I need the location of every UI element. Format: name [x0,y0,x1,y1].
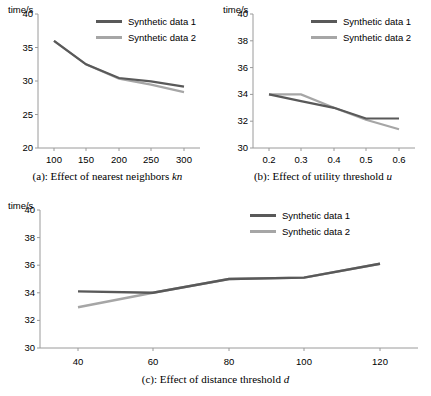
legend-label: Synthetic data 2 [128,32,196,43]
legend-item-a-1: Synthetic data 2 [96,32,196,43]
chart-panel-a: time/s Synthetic data 1 Synthetic data 2… [0,0,215,190]
caption-a-text: (a): Effect of nearest neighbors [33,170,172,182]
y-tick-c-32: 32 [24,314,35,325]
legend-swatch-icon [250,214,276,217]
legend-c: Synthetic data 1 Synthetic data 2 [250,210,350,242]
x-tick-a-3: 250 [143,154,159,165]
x-tick-b-0: 0.2 [262,154,275,165]
legend-b: Synthetic data 1 Synthetic data 2 [311,16,411,48]
y-tick-c-34: 34 [24,287,35,298]
legend-swatch-icon [311,36,337,39]
legend-label: Synthetic data 1 [282,210,350,221]
x-tick-b-4: 0.6 [392,154,405,165]
legend-item-b-0: Synthetic data 1 [311,16,411,27]
y-tick-a-35: 35 [22,42,33,53]
caption-c-symbol: d [284,373,290,385]
caption-c: (c): Effect of distance threshold d [0,373,431,385]
y-tick-a-25: 25 [22,109,33,120]
caption-b: (b): Effect of utility threshold u [215,170,431,182]
y-tick-c-36: 36 [24,259,35,270]
legend-label: Synthetic data 1 [128,16,196,27]
y-tick-b-34: 34 [237,88,248,99]
y-tick-a-30: 30 [22,75,33,86]
legend-label: Synthetic data 2 [282,226,350,237]
series-line-c-1 [78,264,380,308]
x-tick-a-4: 300 [176,154,192,165]
legend-item-b-1: Synthetic data 2 [311,32,411,43]
x-tick-c-0: 40 [73,356,84,367]
y-tick-c-38: 38 [24,232,35,243]
y-tick-b-38: 38 [237,35,248,46]
y-tick-b-36: 36 [237,62,248,73]
y-tick-b-30: 30 [237,142,248,153]
plot-area-c: 30 32 34 36 38 40 40 60 80 100 120 [0,190,431,370]
legend-item-c-0: Synthetic data 1 [250,210,350,221]
legend-swatch-icon [250,230,276,233]
y-axis-label-c: time/s [8,200,33,211]
legend-swatch-icon [96,36,122,39]
y-axis-label-b: time/s [223,4,248,15]
x-tick-c-1: 60 [148,356,159,367]
x-tick-a-1: 150 [78,154,94,165]
series-line-c-0 [78,264,380,293]
y-axis-label-a: time/s [8,4,33,15]
caption-b-text: (b): Effect of utility threshold [254,170,387,182]
legend-a: Synthetic data 1 Synthetic data 2 [96,16,196,48]
legend-label: Synthetic data 1 [343,16,411,27]
x-tick-a-2: 200 [111,154,127,165]
x-tick-c-4: 120 [372,356,388,367]
legend-swatch-icon [311,20,337,23]
caption-c-text: (c): Effect of distance threshold [142,373,284,385]
caption-b-symbol: u [387,170,393,182]
caption-a: (a): Effect of nearest neighbors kn [0,170,215,182]
legend-label: Synthetic data 2 [343,32,411,43]
x-tick-b-3: 0.5 [359,154,372,165]
x-tick-c-3: 100 [296,356,312,367]
chart-panel-b: time/s Synthetic data 1 Synthetic data 2… [215,0,431,190]
x-tick-b-2: 0.4 [327,154,340,165]
legend-swatch-icon [96,20,122,23]
y-tick-a-20: 20 [22,142,33,153]
legend-item-a-0: Synthetic data 1 [96,16,196,27]
legend-item-c-1: Synthetic data 2 [250,226,350,237]
x-tick-a-0: 100 [46,154,62,165]
chart-panel-c: time/s Synthetic data 1 Synthetic data 2… [0,190,431,396]
y-tick-c-30: 30 [24,342,35,353]
x-tick-c-2: 80 [224,356,235,367]
x-tick-b-1: 0.3 [294,154,307,165]
series-line-b-1 [269,94,399,129]
y-tick-b-32: 32 [237,115,248,126]
series-line-b-0 [269,94,399,118]
caption-a-symbol: kn [172,170,182,182]
